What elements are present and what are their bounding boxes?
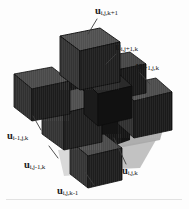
label-k-plus-1: ui,j,k+1 (95, 6, 118, 17)
label-subscript: i,j,k-1 (63, 189, 78, 197)
label-k-minus-1: ui,j,k-1 (57, 186, 78, 197)
label-subscript: i,j+1,k (121, 45, 138, 53)
label-j-minus-1: ui,j-1,k (24, 160, 45, 171)
label-subscript: i,j,k (128, 169, 138, 177)
label-j-plus-1: ui,j+1,k (115, 42, 138, 53)
label-i-plus-1: ui+1,j,k (136, 61, 159, 72)
label-subscript: i,j-1,k (30, 163, 45, 171)
label-i-minus-1: ui-1,j,k (7, 131, 28, 142)
figure-baseline (6, 199, 182, 200)
label-subscript: i+1,j,k (142, 64, 159, 72)
label-subscript: i-1,j,k (13, 134, 28, 142)
label-subscript: i,j,k+1 (101, 9, 118, 17)
stencil-figure: ui,j,k+1 ui,j+1,k ui+1,j,k ui-1,j,k ui,j… (0, 0, 189, 209)
stencil-artwork (0, 0, 189, 209)
label-center: ui,j,k (122, 166, 138, 177)
